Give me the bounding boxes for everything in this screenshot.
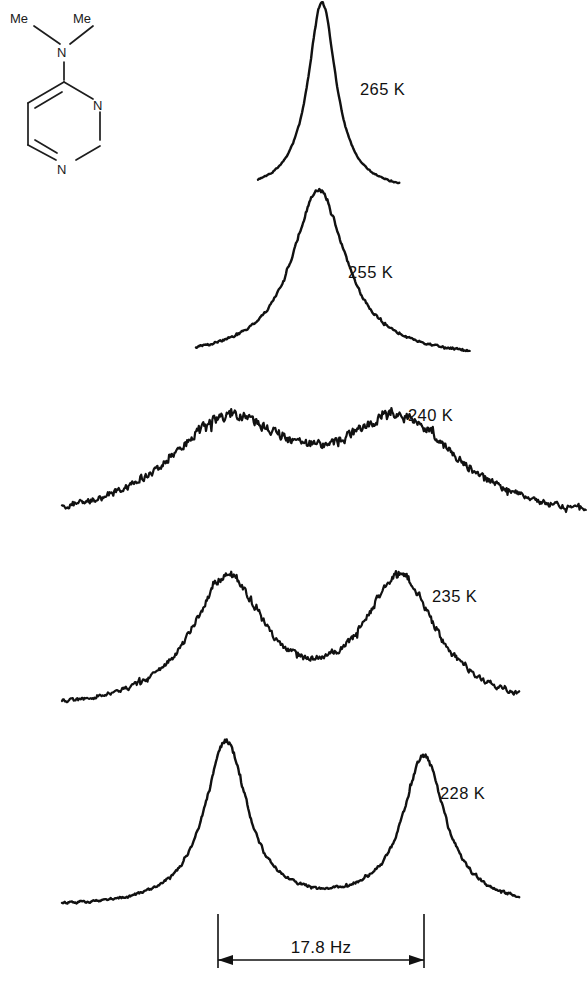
bond-me-left-n (34, 26, 60, 44)
bond-n1-c6 (28, 145, 56, 160)
bond-c5-c4 (28, 82, 64, 103)
bond-c5-c4-inner (35, 92, 62, 108)
scale-bar-left-arrowhead (218, 955, 233, 965)
amine-nitrogen-label: N (57, 45, 66, 60)
methyl-right-label: Me (73, 11, 91, 26)
temperature-label: 235 K (432, 587, 477, 605)
spectrum-trace (196, 189, 470, 351)
temperature-label: 265 K (360, 80, 405, 98)
bond-c2-n1 (76, 146, 100, 160)
spectrum-trace (62, 408, 586, 512)
spectra-traces-group (62, 2, 586, 903)
bond-c4-n3 (64, 82, 93, 99)
methyl-left-label: Me (10, 11, 28, 26)
temperature-label: 228 K (440, 784, 485, 802)
ring-nitrogen-3-label: N (57, 162, 66, 177)
scale-bar-right-arrowhead (409, 955, 424, 965)
molecular-structure: Me Me N N N (10, 11, 102, 177)
temperature-label: 240 K (408, 406, 453, 424)
nmr-stacked-spectra-figure: Me Me N N N 265 K255 K240 K235 K228 K 17… (0, 0, 588, 984)
ring-nitrogen-1-label: N (93, 98, 102, 113)
temperature-label: 255 K (348, 263, 393, 281)
bond-me-right-n (70, 26, 93, 44)
spectrum-trace (62, 740, 519, 904)
scale-bar: 17.8 Hz (218, 914, 424, 968)
scale-bar-label: 17.8 Hz (291, 938, 352, 957)
temperature-labels-group: 265 K255 K240 K235 K228 K (348, 80, 485, 802)
